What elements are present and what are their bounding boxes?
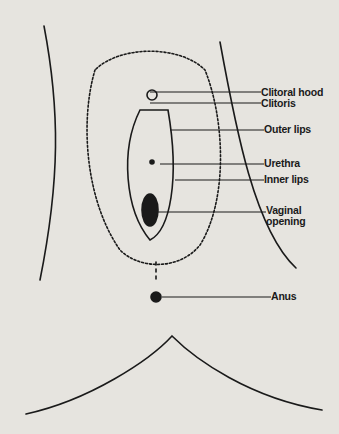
label-clitoris: Clitoris: [261, 98, 296, 109]
outer-outline: [87, 51, 220, 264]
urethra-marker: [150, 160, 154, 164]
label-outer-lips: Outer lips: [264, 124, 311, 135]
anus-marker: [151, 292, 161, 302]
right-body-contour: [220, 42, 296, 268]
label-vaginal-opening: Vaginal opening: [266, 205, 305, 227]
opening-marker: [142, 194, 158, 226]
label-inner-lips: Inner lips: [264, 174, 309, 185]
label-urethra: Urethra: [264, 158, 300, 169]
left-body-contour: [40, 26, 56, 280]
lower-contour: [26, 336, 322, 414]
anatomy-diagram-figure: Clitoral hood Clitoris Outer lips Urethr…: [0, 0, 339, 434]
label-anus: Anus: [271, 291, 296, 302]
